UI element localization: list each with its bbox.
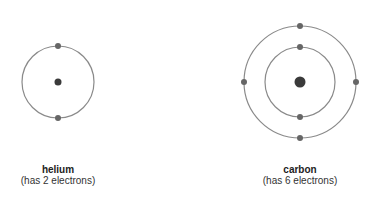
carbon-electron-outer-left (241, 79, 247, 85)
helium-caption: (has 2 electrons) (0, 175, 128, 186)
carbon-name: carbon (230, 164, 370, 175)
carbon-label: carbon (has 6 electrons) (230, 164, 370, 186)
helium-name: helium (0, 164, 128, 175)
carbon-electron-inner-top (297, 44, 303, 50)
carbon-electron-outer-bottom (297, 135, 303, 141)
carbon-atom (241, 23, 359, 141)
helium-nucleus (55, 79, 62, 86)
carbon-caption: (has 6 electrons) (230, 175, 370, 186)
helium-electron-1 (55, 43, 61, 49)
helium-label: helium (has 2 electrons) (0, 164, 128, 186)
carbon-electron-outer-top (297, 23, 303, 29)
helium-electron-2 (55, 115, 61, 121)
carbon-electron-outer-right (353, 79, 359, 85)
carbon-nucleus (295, 77, 306, 88)
carbon-electron-inner-bottom (297, 114, 303, 120)
helium-atom (22, 43, 94, 121)
